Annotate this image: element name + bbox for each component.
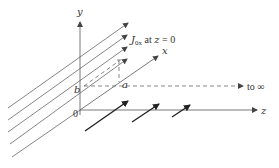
current-eq: = 0: [160, 34, 176, 45]
a-label: a: [122, 79, 128, 90]
y-axis-label: y: [76, 6, 83, 17]
bold-arrow-2: [132, 104, 159, 122]
bold-arrow-3: [172, 105, 190, 117]
current-line-5: [12, 110, 80, 157]
x-axis: [80, 56, 158, 110]
current-line-1: [8, 23, 128, 108]
bold-arrow-1: [85, 101, 128, 131]
to-infinity-label: to ∞: [247, 81, 264, 92]
propagation-arrows: [85, 101, 190, 131]
x-axis-label: x: [162, 45, 168, 56]
b-label: b: [74, 84, 80, 95]
waveguide-current-sheet-diagram: y x z 0 a b J0x at z = 0 to ∞: [0, 0, 279, 168]
z-axis-label: z: [260, 105, 267, 116]
current-line-4: [10, 59, 127, 144]
current-at: at: [142, 34, 154, 45]
origin-label: 0: [73, 108, 78, 119]
current-line-2: [8, 35, 127, 120]
current-sheet-label: J0x at z = 0: [129, 34, 175, 47]
current-sheet-lines: [8, 23, 128, 157]
